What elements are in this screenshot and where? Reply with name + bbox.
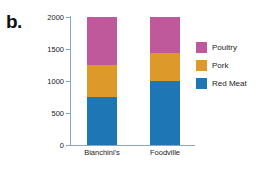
legend-label: Poultry [212,43,237,52]
bar-segment-red-meat [150,81,180,145]
y-axis-tick-label: 2000 [47,13,64,22]
bar-segment-red-meat [87,97,117,145]
y-axis-tick [66,17,71,18]
legend: PoultryPorkRed Meat [196,42,247,96]
y-axis-tick-label: 1000 [47,77,64,86]
legend-label: Red Meat [212,79,247,88]
y-axis-tick [66,113,71,114]
legend-label: Pork [212,61,228,70]
legend-swatch [196,42,207,53]
legend-item: Poultry [196,42,247,53]
y-axis-tick [66,81,71,82]
y-axis-tick-label: 0 [60,141,64,150]
bar-segment-poultry [87,17,117,65]
y-axis-tick-label: 1500 [47,45,64,54]
x-axis-category-label: Foodville [135,148,195,157]
legend-swatch [196,60,207,71]
bar-segment-pork [87,65,117,97]
y-axis-tick-label: 500 [51,109,64,118]
x-axis-category-label: Bianchini's [72,148,132,157]
bar-segment-poultry [150,17,180,53]
legend-swatch [196,78,207,89]
legend-item: Pork [196,60,247,71]
figure-panel-b: b. 0500100015002000 Bianchini'sFoodville… [0,0,263,170]
bar-segment-pork [150,53,180,81]
y-axis-tick [66,49,71,50]
stacked-bar [150,17,180,145]
stacked-bar [87,17,117,145]
x-axis-line [70,145,195,146]
y-axis-tick [66,145,71,146]
legend-item: Red Meat [196,78,247,89]
